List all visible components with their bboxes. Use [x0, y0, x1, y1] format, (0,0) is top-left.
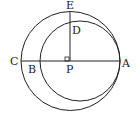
right-angle-marker	[65, 57, 69, 61]
label-c: C	[10, 56, 18, 67]
label-b: B	[28, 64, 36, 75]
label-a: A	[122, 58, 130, 69]
label-p: P	[66, 64, 73, 75]
label-d: D	[72, 25, 81, 36]
label-e: E	[66, 0, 74, 11]
geometry-figure	[0, 0, 137, 113]
